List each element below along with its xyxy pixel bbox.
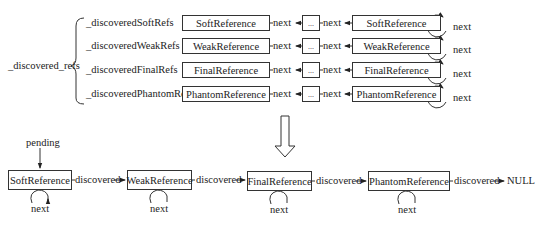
discovered-refs-label: _discovered_refs — [8, 60, 80, 72]
tail-soft-reference: SoftReference — [352, 15, 441, 31]
down-arrow-icon — [275, 116, 295, 157]
next-label: next — [323, 17, 341, 29]
discovered-label: discovered — [316, 175, 361, 187]
node-weak-reference: WeakReference — [127, 170, 192, 190]
ellipsis-node: ... — [302, 15, 320, 31]
discovered-label: discovered — [196, 174, 241, 186]
field-discovered-weak-refs: _discoveredWeakRefs — [86, 40, 180, 52]
self-next-label: next — [453, 68, 471, 80]
self-next-label: next — [453, 44, 471, 56]
self-next-label: next — [453, 21, 471, 33]
field-discovered-final-refs: _discoveredFinalRefs — [86, 64, 178, 76]
head-soft-reference: SoftReference — [182, 15, 270, 31]
tail-weak-reference: WeakReference — [352, 38, 441, 54]
node-final-reference: FinalReference — [247, 171, 312, 191]
next-label: next — [323, 40, 341, 52]
next-label: next — [273, 17, 291, 29]
head-weak-reference: WeakReference — [182, 38, 270, 54]
tail-final-reference: FinalReference — [352, 62, 441, 78]
ellipsis-node: ... — [302, 62, 320, 78]
node-phantom-reference: PhantomReference — [368, 171, 450, 191]
pending-label: pending — [26, 137, 60, 149]
self-next-label: next — [398, 204, 416, 216]
self-next-label: next — [31, 203, 49, 215]
self-next-label: next — [150, 203, 168, 215]
next-label: next — [323, 64, 341, 76]
self-next-label: next — [453, 92, 471, 104]
field-discovered-soft-refs: _discoveredSoftRefs — [86, 17, 173, 29]
node-soft-reference: SoftReference — [8, 170, 72, 190]
next-label: next — [273, 88, 291, 100]
ellipsis-node: ... — [302, 86, 320, 102]
head-final-reference: FinalReference — [182, 62, 270, 78]
head-phantom-reference: PhantomReference — [182, 86, 270, 102]
discovered-label: discovered — [454, 175, 499, 187]
next-label: next — [273, 64, 291, 76]
diagram-connectors — [0, 0, 540, 226]
tail-phantom-reference: PhantomReference — [352, 86, 441, 102]
ellipsis-node: ... — [302, 38, 320, 54]
next-label: next — [323, 88, 341, 100]
next-label: next — [273, 40, 291, 52]
self-next-label: next — [270, 204, 288, 216]
null-terminal: NULL — [507, 175, 535, 187]
field-discovered-phantom-refs: _discoveredPhantomRefs — [86, 88, 193, 100]
discovered-label: discovered — [75, 174, 120, 186]
